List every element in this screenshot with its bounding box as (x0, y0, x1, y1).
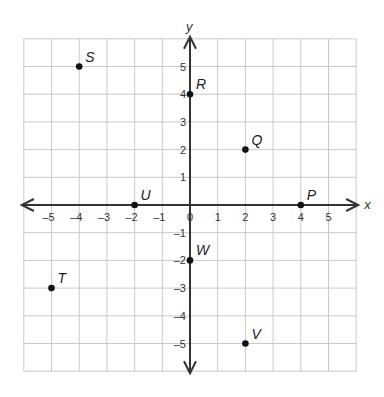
y-tick-label: –5 (174, 338, 186, 350)
axes: xy (22, 19, 371, 373)
x-tick-label: 4 (298, 211, 304, 223)
point-r (187, 91, 194, 98)
x-tick-label: 5 (325, 211, 331, 223)
y-tick-label: –2 (174, 254, 186, 266)
point-label-v: V (251, 326, 262, 342)
y-tick-label: 4 (180, 88, 186, 100)
x-axis-label: x (363, 197, 371, 212)
y-axis-label: y (185, 19, 194, 34)
point-label-u: U (141, 187, 152, 203)
point-s (76, 63, 83, 70)
coordinate-plane: xy –5–4–3–2–1012345–5–4–3–2–112345 SRQPU… (0, 0, 384, 397)
y-tick-label: 2 (180, 144, 186, 156)
point-label-q: Q (251, 132, 262, 148)
x-tick-label: 0 (187, 211, 193, 223)
point-w (187, 257, 194, 264)
y-tick-label: –3 (174, 282, 186, 294)
x-tick-label: –1 (153, 211, 165, 223)
point-p (298, 202, 305, 209)
point-label-w: W (196, 242, 211, 258)
point-label-r: R (196, 76, 206, 92)
point-label-t: T (58, 270, 68, 286)
x-tick-label: –3 (98, 211, 110, 223)
point-q (242, 146, 249, 153)
point-v (242, 340, 249, 347)
x-tick-label: –2 (125, 211, 137, 223)
x-tick-label: –4 (70, 211, 82, 223)
x-tick-label: 1 (215, 211, 221, 223)
x-tick-label: –5 (42, 211, 54, 223)
y-tick-label: 5 (180, 61, 186, 73)
y-tick-label: –1 (174, 227, 186, 239)
point-label-p: P (307, 187, 317, 203)
point-label-s: S (85, 49, 95, 65)
y-tick-label: –4 (174, 310, 186, 322)
point-u (131, 202, 138, 209)
y-tick-label: 1 (180, 171, 186, 183)
x-tick-label: 2 (242, 211, 248, 223)
y-tick-label: 3 (180, 116, 186, 128)
point-t (48, 285, 55, 292)
x-tick-label: 3 (270, 211, 276, 223)
